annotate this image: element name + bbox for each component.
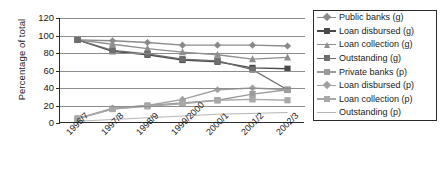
data-point-marker <box>179 56 185 62</box>
legend-item[interactable]: Loan disbursed (g) <box>314 25 436 39</box>
legend-marker-icon <box>317 53 336 65</box>
legend-item-label: Public banks (g) <box>336 13 404 22</box>
legend-item[interactable]: Private banks (p) <box>314 65 436 79</box>
legend-point-marker <box>324 96 330 102</box>
data-point-marker <box>249 96 255 102</box>
legend-marker-icon <box>317 107 336 119</box>
data-point-marker <box>249 42 256 49</box>
legend-item-label: Outstanding (p) <box>336 108 401 117</box>
legend-marker-icon <box>317 80 336 92</box>
legend-point-marker <box>324 55 330 61</box>
legend-line-swatch <box>317 112 336 113</box>
gridline <box>60 106 305 107</box>
legend-item[interactable]: Loan disbursed (p) <box>314 79 436 93</box>
legend-point-marker <box>322 13 330 21</box>
legend-marker-icon <box>317 66 336 78</box>
legend-item[interactable]: Outstanding (p) <box>314 106 436 120</box>
legend-item[interactable]: Loan collection (g) <box>314 38 436 52</box>
legend-point-marker <box>324 42 330 48</box>
y-tick-label: 40 <box>28 83 54 93</box>
gridline <box>60 88 305 89</box>
legend-item-label: Loan disbursed (g) <box>336 27 414 36</box>
chart-container: Percentage of total 020406080100120 1996… <box>0 0 441 172</box>
y-tick-label: 0 <box>28 118 54 128</box>
y-tick-label: 100 <box>28 31 54 41</box>
y-tick-label: 120 <box>28 13 54 23</box>
y-tick-label: 60 <box>28 66 54 76</box>
y-axis-tick-labels: 020406080100120 <box>26 0 54 172</box>
legend-item-label: Outstanding (g) <box>336 54 401 63</box>
legend-marker-icon <box>317 25 336 37</box>
legend-item-label: Loan collection (p) <box>336 95 413 104</box>
x-axis-tick-labels: 1996/71997/81998/91999/20002000/12001/22… <box>59 123 304 172</box>
y-tick-label: 80 <box>28 48 54 58</box>
legend-point-marker <box>324 28 330 34</box>
plot-area <box>59 18 304 123</box>
legend-marker-icon <box>317 93 336 105</box>
data-point-marker <box>214 58 220 64</box>
data-point-marker <box>214 97 220 103</box>
data-point-marker <box>74 37 80 43</box>
legend-item-label: Loan collection (g) <box>336 40 413 49</box>
legend-marker-icon <box>317 39 336 51</box>
chart-legend: Public banks (g)Loan disbursed (g)Loan c… <box>313 10 437 121</box>
y-axis-title: Percentage of total <box>16 5 27 115</box>
legend-marker-icon <box>317 12 336 24</box>
legend-item[interactable]: Public banks (g) <box>314 11 436 25</box>
legend-item[interactable]: Loan collection (p) <box>314 93 436 107</box>
legend-point-marker <box>324 69 330 75</box>
data-point-marker <box>214 42 221 49</box>
legend-item-label: Loan disbursed (p) <box>336 81 414 90</box>
y-tick-label: 20 <box>28 101 54 111</box>
legend-item-label: Private banks (p) <box>336 68 407 77</box>
data-point-marker <box>284 42 291 49</box>
gridline <box>60 71 305 72</box>
gridline <box>60 53 305 54</box>
data-point-marker <box>109 106 115 112</box>
legend-item[interactable]: Outstanding (g) <box>314 52 436 66</box>
legend-point-marker <box>322 81 330 89</box>
gridline <box>60 18 305 19</box>
data-point-marker <box>284 97 290 103</box>
data-point-marker <box>179 42 186 49</box>
gridline <box>60 36 305 37</box>
